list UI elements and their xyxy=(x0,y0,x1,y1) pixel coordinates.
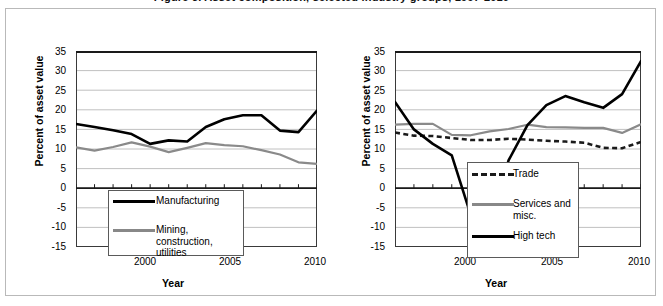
x-tick-right-2010: 2010 xyxy=(622,257,656,267)
legend-item-services-and-misc: Services and misc. xyxy=(472,198,574,221)
x-tick-left-2010: 2010 xyxy=(298,257,332,267)
y-tick-left-30: 30 xyxy=(40,66,66,76)
legend-label-mining: Mining, construction, utilities xyxy=(156,224,238,259)
x-tick-left-2000: 2000 xyxy=(128,257,162,267)
series-line-manufacturing xyxy=(76,111,317,144)
legend-swatch-manufacturing-icon xyxy=(113,195,155,207)
y-tick-right-m10: -10 xyxy=(359,222,385,232)
y-tick-left-25: 25 xyxy=(40,86,66,96)
legend-left: Manufacturing Mining, construction, util… xyxy=(108,190,244,256)
legend-right: Trade Services and misc. High tech xyxy=(467,162,579,258)
figure-page: Figure 3. Asset composition, selected in… xyxy=(0,0,663,306)
x-tick-right-2005: 2005 xyxy=(535,257,569,267)
y-tick-right-m15: -15 xyxy=(359,242,385,252)
x-axis-label-left: Year xyxy=(28,277,318,289)
y-tick-right-m5: -5 xyxy=(359,203,385,213)
legend-item-manufacturing: Manufacturing xyxy=(113,195,238,207)
legend-label-high-tech: High tech xyxy=(513,230,555,242)
legend-swatch-hightech-icon xyxy=(472,230,512,242)
legend-swatch-mining-icon xyxy=(113,224,155,236)
y-tick-left-5: 5 xyxy=(40,164,66,174)
y-tick-right-5: 5 xyxy=(359,164,385,174)
x-tick-right-2000: 2000 xyxy=(448,257,482,267)
figure-frame: Percent of asset value 35 30 25 20 15 10… xyxy=(5,8,656,296)
y-tick-right-10: 10 xyxy=(359,144,385,154)
legend-item-mining-construction-utilities: Mining, construction, utilities xyxy=(113,224,238,259)
series-line-mining-construction-utilities xyxy=(76,142,317,164)
legend-label-manufacturing: Manufacturing xyxy=(156,195,219,207)
legend-item-high-tech: High tech xyxy=(472,230,574,242)
y-tick-left-m10: -10 xyxy=(40,222,66,232)
chart-panel-right: Percent of asset value 35 30 25 20 15 10… xyxy=(331,9,656,297)
y-tick-left-15: 15 xyxy=(40,125,66,135)
legend-swatch-trade-icon xyxy=(472,168,512,180)
figure-title-strip: Figure 3. Asset composition, selected in… xyxy=(0,0,663,5)
y-tick-right-25: 25 xyxy=(359,86,385,96)
y-tick-left-m15: -15 xyxy=(40,242,66,252)
y-tick-right-35: 35 xyxy=(359,47,385,57)
y-tick-left-m5: -5 xyxy=(40,203,66,213)
y-tick-left-10: 10 xyxy=(40,144,66,154)
chart-panel-left: Percent of asset value 35 30 25 20 15 10… xyxy=(6,9,331,297)
y-tick-right-0: 0 xyxy=(359,183,385,193)
legend-label-services: Services and misc. xyxy=(513,198,574,221)
y-tick-left-20: 20 xyxy=(40,105,66,115)
legend-swatch-services-icon xyxy=(472,198,512,210)
y-tick-right-30: 30 xyxy=(359,66,385,76)
y-tick-right-20: 20 xyxy=(359,105,385,115)
x-axis-label-right: Year xyxy=(351,277,641,289)
y-tick-left-35: 35 xyxy=(40,47,66,57)
y-tick-left-0: 0 xyxy=(40,183,66,193)
y-tick-right-15: 15 xyxy=(359,125,385,135)
x-tick-left-2005: 2005 xyxy=(213,257,247,267)
legend-label-trade: Trade xyxy=(513,168,539,180)
figure-title: Figure 3. Asset composition, selected in… xyxy=(0,0,663,3)
legend-item-trade: Trade xyxy=(472,168,574,180)
